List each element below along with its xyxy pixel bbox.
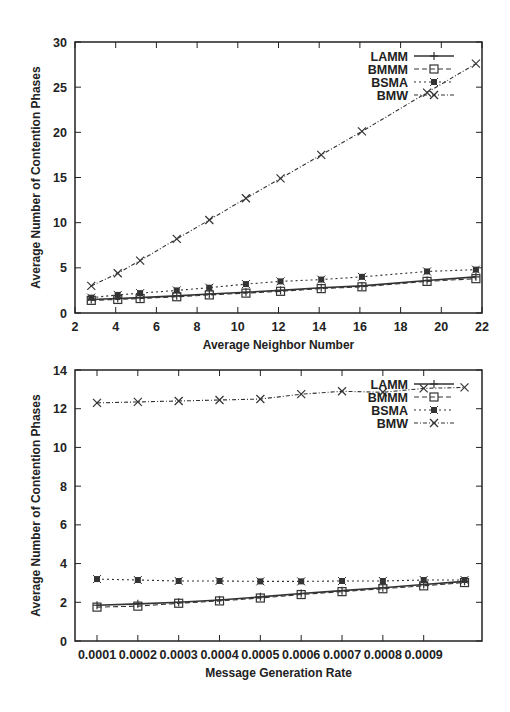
chart-canvas-top: 051015202530246810121416182022Average Ne… (0, 0, 510, 356)
x-tick-label: 22 (475, 320, 489, 334)
legend-item-bmmm: BMMM (368, 391, 454, 405)
x-tick-label: 20 (434, 320, 448, 334)
x-tick-label: 16 (353, 320, 367, 334)
y-tick-label: 20 (53, 126, 67, 140)
y-tick-label: 5 (60, 261, 67, 275)
x-tick-label: 4 (112, 320, 119, 334)
x-tick-label: 0.0002 (119, 648, 157, 662)
x-tick-label: 12 (272, 320, 286, 334)
chart-contention-vs-neighbors: 051015202530246810121416182022Average Ne… (0, 0, 510, 356)
legend: LAMMBMMMBSMABMW (368, 50, 454, 103)
y-tick-label: 15 (53, 171, 67, 185)
y-tick-label: 0 (60, 307, 67, 321)
series-bsma (87, 266, 480, 302)
x-tick-label: 8 (194, 320, 201, 334)
legend-item-bmmm: BMMM (368, 63, 454, 77)
series-bsma (93, 575, 469, 585)
x-axis-title: Message Generation Rate (205, 666, 352, 680)
y-tick-label: 10 (53, 216, 67, 230)
svg-text:BMW: BMW (377, 417, 408, 431)
legend: LAMMBMMMBSMABMW (368, 378, 454, 431)
x-tick-label: 18 (394, 320, 408, 334)
chart-contention-vs-message-rate: 024681012140.00010.00020.00030.00040.000… (0, 356, 510, 712)
series-bmw (87, 60, 480, 290)
svg-text:BMMM: BMMM (368, 391, 408, 405)
svg-text:BSMA: BSMA (371, 404, 408, 418)
series-bmw (93, 383, 469, 406)
svg-text:BSMA: BSMA (371, 76, 408, 90)
chart-canvas-bottom: 024681012140.00010.00020.00030.00040.000… (0, 356, 510, 712)
y-axis: 051015202530 (53, 36, 482, 321)
y-tick-label: 2 (60, 596, 67, 610)
svg-text:BMMM: BMMM (368, 63, 408, 77)
y-tick-label: 8 (60, 480, 67, 494)
x-tick-label: 10 (231, 320, 245, 334)
x-axis-title: Average Neighbor Number (203, 338, 355, 352)
y-axis: 02468101214 (53, 364, 482, 649)
legend-item-bmw: BMW (377, 417, 454, 431)
x-tick-label: 0.0007 (323, 648, 361, 662)
series-lamm (87, 273, 480, 304)
legend-item-bmw: BMW (377, 89, 454, 103)
x-tick-label: 0.0001 (78, 648, 116, 662)
x-tick-label: 0.0004 (200, 648, 238, 662)
x-tick-label: 14 (312, 320, 326, 334)
svg-text:LAMM: LAMM (371, 378, 409, 392)
x-tick-label: 0.0005 (241, 648, 279, 662)
svg-text:BMW: BMW (377, 89, 408, 103)
y-axis-title: Average Number of Contention Phases (29, 394, 43, 617)
legend-item-bsma: BSMA (371, 404, 454, 418)
x-tick-label: 0.0006 (282, 648, 320, 662)
series-lamm (93, 577, 469, 609)
y-tick-label: 4 (60, 557, 67, 571)
y-tick-label: 0 (60, 635, 67, 649)
legend-item-bsma: BSMA (371, 76, 454, 90)
x-tick-label: 0.0003 (160, 648, 198, 662)
x-tick-label: 0.0008 (364, 648, 402, 662)
x-tick-label: 6 (153, 320, 160, 334)
y-tick-label: 25 (53, 81, 67, 95)
plot-frame (75, 370, 482, 641)
x-tick-label: 2 (72, 320, 79, 334)
y-tick-label: 12 (53, 402, 67, 416)
y-tick-label: 10 (53, 441, 67, 455)
svg-text:LAMM: LAMM (371, 50, 409, 64)
y-tick-label: 6 (60, 518, 67, 532)
y-tick-label: 30 (53, 36, 67, 50)
y-tick-label: 14 (53, 364, 67, 378)
y-axis-title: Average Number of Contention Phases (29, 66, 43, 289)
legend-item-lamm: LAMM (371, 50, 455, 64)
x-tick-label: 0.0009 (405, 648, 443, 662)
